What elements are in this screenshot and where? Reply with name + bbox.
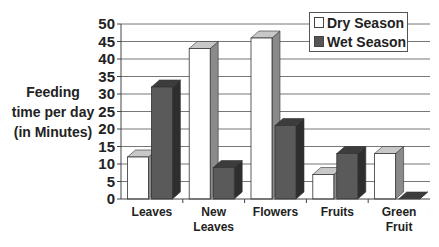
x-category-label: Fruits [321,205,355,219]
x-category-label: GreenFruit [382,205,417,234]
x-category-label: Leaves [132,205,173,219]
y-tick-label: 50 [98,15,115,32]
x-category-label: Flowers [253,205,299,219]
bar-wet-season [275,119,304,200]
legend-label: Wet Season [327,34,406,50]
x-axis-labels: LeavesNewLeavesFlowersFruitsGreenFruit [132,205,417,234]
y-axis-title-line-2: time per day [0,102,106,122]
bars [127,31,427,199]
legend: Dry Season Wet Season [309,12,408,52]
dry-season-swatch-icon [314,17,324,28]
bar-wet-season [399,192,428,199]
wet-season-swatch-icon [314,36,324,47]
y-tick-label: 45 [98,33,115,50]
legend-item-dry-season: Dry Season [310,13,407,32]
y-tick-label: 5 [107,173,115,190]
y-tick-label: 10 [98,155,115,172]
bar-wet-season [337,147,366,200]
y-axis-title-line-1: Feeding [0,82,106,102]
y-tick-label: 0 [107,190,115,207]
bar-wet-season [213,161,242,200]
y-tick-label: 40 [98,50,115,67]
legend-item-wet-season: Wet Season [310,32,407,51]
y-axis-title-line-3: (in Minutes) [0,122,106,142]
legend-label: Dry Season [327,15,404,31]
x-category-label: NewLeaves [193,205,234,234]
y-axis-title: Feeding time per day (in Minutes) [0,82,106,142]
bar-wet-season [151,80,180,199]
caption-fragment [60,239,439,247]
bar-dry-season [375,147,404,200]
